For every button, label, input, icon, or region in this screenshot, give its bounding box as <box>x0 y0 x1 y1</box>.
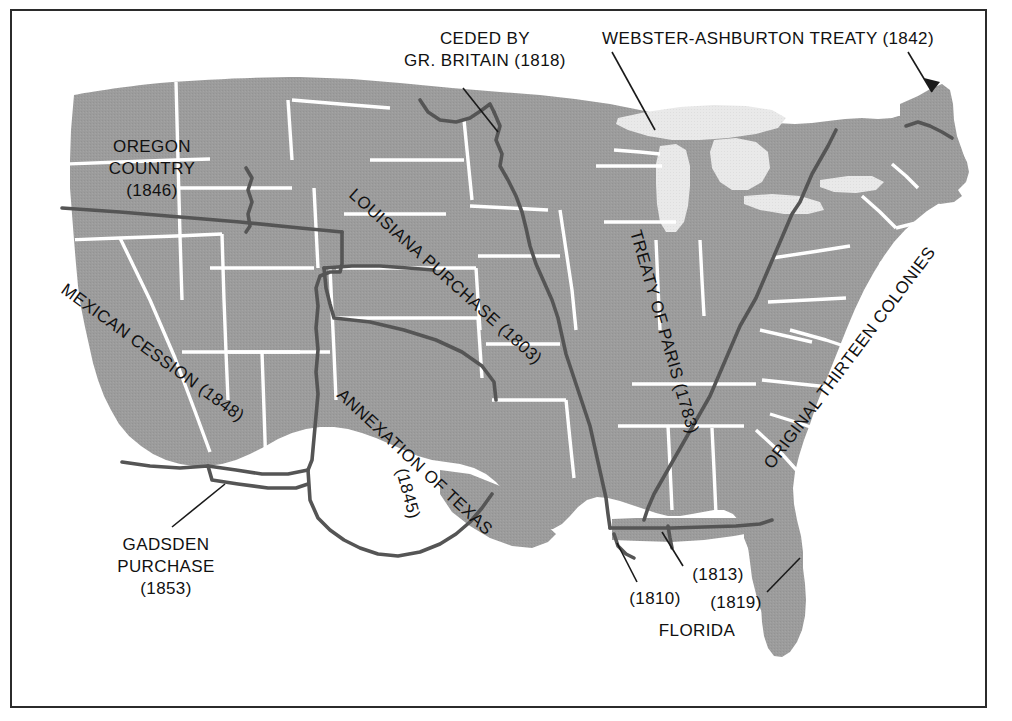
label-oregon-country-line3: (1846) <box>126 181 178 200</box>
us-territorial-expansion-map: CEDED BY GR. BRITAIN (1818) WEBSTER-ASHB… <box>0 0 1012 721</box>
label-florida-name: FLORIDA <box>659 621 736 640</box>
map-page: CEDED BY GR. BRITAIN (1818) WEBSTER-ASHB… <box>0 0 1012 721</box>
label-oregon-country-line2: COUNTRY <box>109 159 196 178</box>
florida-peninsula <box>744 520 806 657</box>
label-oregon-country-line1: OREGON <box>113 137 191 156</box>
leader-gadsden <box>172 484 225 527</box>
label-ceded-by-britain-line2: GR. BRITAIN (1818) <box>404 51 566 70</box>
label-florida-1813: (1813) <box>692 565 744 584</box>
leader-florida-1810 <box>617 543 637 582</box>
label-ceded-by-britain-line1: CEDED BY <box>440 29 530 48</box>
label-gadsden-purchase-line2: PURCHASE <box>117 557 215 576</box>
label-florida-1810: (1810) <box>629 589 681 608</box>
label-gadsden-purchase-line1: GADSDEN <box>123 535 210 554</box>
label-florida-1819: (1819) <box>710 593 762 612</box>
leader-webster-ashburton-2 <box>908 52 932 92</box>
label-gadsden-purchase-line3: (1853) <box>140 579 192 598</box>
label-webster-ashburton-treaty: WEBSTER-ASHBURTON TREATY (1842) <box>602 29 934 48</box>
